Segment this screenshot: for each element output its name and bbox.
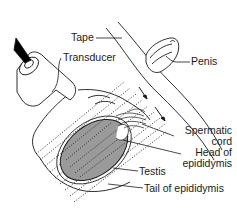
label-tape: Tape bbox=[71, 32, 94, 43]
diagram-canvas: Tape Transducer Penis Spermatic cord Hea… bbox=[0, 0, 237, 224]
penis-shape bbox=[146, 38, 179, 73]
label-testis: Testis bbox=[139, 166, 166, 177]
label-tail-of-epididymis: Tail of epididymis bbox=[144, 183, 224, 194]
label-spermatic-cord: Spermatic cord bbox=[176, 125, 232, 147]
transducer-probe bbox=[14, 38, 76, 106]
label-head-line2: epididymis bbox=[172, 158, 232, 169]
label-transducer: Transducer bbox=[63, 52, 116, 63]
label-penis: Penis bbox=[191, 56, 217, 67]
label-head-of-epididymis: Head of epididymis bbox=[172, 147, 232, 169]
testis-shape bbox=[44, 102, 145, 198]
